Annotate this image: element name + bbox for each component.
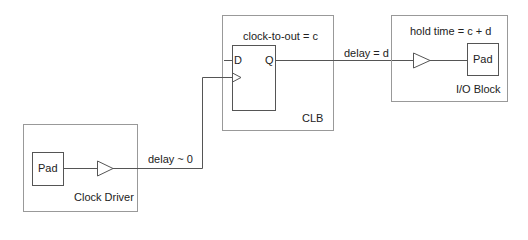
clock-driver-label: Clock Driver bbox=[74, 192, 134, 203]
q-port-label: Q bbox=[265, 55, 274, 66]
io-pad-label: Pad bbox=[473, 54, 493, 65]
io-buffer-icon bbox=[414, 53, 431, 68]
clb-title: clock-to-out = c bbox=[243, 31, 318, 42]
d-port-label: D bbox=[234, 55, 242, 66]
q-wire-delay-label: delay = d bbox=[344, 48, 389, 59]
clock-buffer-icon bbox=[98, 161, 114, 176]
io-block-label: I/O Block bbox=[456, 84, 501, 95]
clb-label: CLB bbox=[302, 113, 323, 124]
clock-pad-label: Pad bbox=[38, 163, 58, 174]
clock-delay-label: delay ~ 0 bbox=[148, 154, 193, 165]
clock-input-triangle bbox=[233, 73, 242, 82]
io-title: hold time = c + d bbox=[410, 26, 491, 37]
